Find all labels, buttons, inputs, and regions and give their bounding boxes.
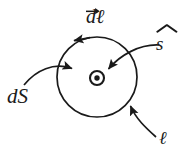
label-dl: dℓ [86,6,104,26]
ell-pointer-arrow [131,106,157,137]
physics-loop-diagram: dℓ s dS ℓ [0,0,181,156]
label-dl-text: dℓ [86,5,104,27]
label-ell-text: ℓ [159,128,167,148]
s-hat-wrapper: s [156,34,163,53]
dS-pointer-arrow [24,66,72,85]
dl-vector-wrapper: dℓ [86,6,104,26]
current-out-of-page-dot [94,75,99,80]
s-hat-pointer-arrow [109,45,160,69]
label-ell: ℓ [159,129,167,147]
hat-accent-icon [155,24,179,33]
label-s-hat-text: s [156,33,163,54]
label-dS-text: dS [7,84,28,108]
label-s-hat: s [156,34,163,53]
label-dS: dS [7,86,28,107]
